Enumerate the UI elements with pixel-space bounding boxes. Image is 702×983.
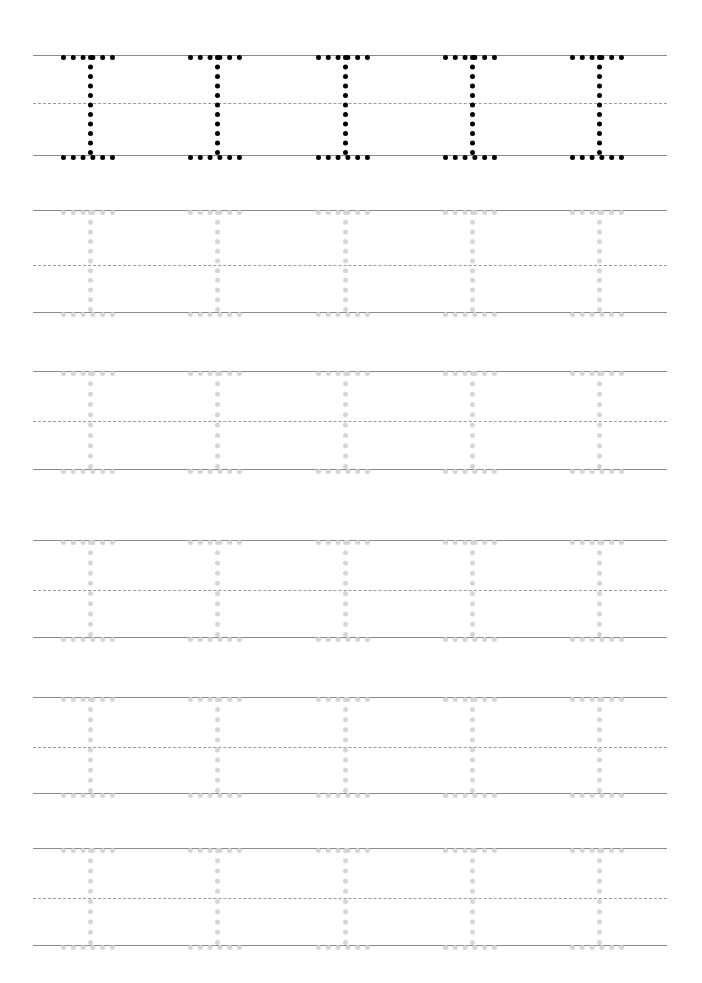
letter-bottom-serif: [443, 945, 497, 950]
letter-stem: [597, 848, 602, 945]
letter-stem: [215, 848, 220, 945]
letter-bottom-serif: [61, 945, 115, 950]
worksheet-page: [0, 0, 702, 983]
mid-rule-line-row-6: [33, 898, 667, 899]
practice-row-6: [0, 0, 702, 983]
letter-stem: [88, 848, 93, 945]
letter-bottom-serif: [570, 945, 624, 950]
letter-bottom-serif: [316, 945, 370, 950]
letter-stem: [343, 848, 348, 945]
letter-bottom-serif: [188, 945, 242, 950]
letter-stem: [470, 848, 475, 945]
